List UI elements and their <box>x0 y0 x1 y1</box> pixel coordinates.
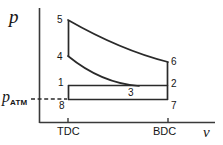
diagram-canvas <box>0 0 223 145</box>
x-tick-label-bdc: BDC <box>153 126 176 137</box>
y-axis-label: p <box>9 7 19 26</box>
state-point-label-1: 1 <box>58 78 64 88</box>
patm-axis-annotation: pATM <box>2 89 27 107</box>
state-point-label-3: 3 <box>128 88 134 98</box>
state-point-label-5: 5 <box>57 15 63 25</box>
state-point-label-8: 8 <box>59 101 65 111</box>
curve-5-to-6 <box>68 20 168 62</box>
x-axis-label: v <box>203 125 210 140</box>
state-point-label-6: 6 <box>171 57 177 67</box>
patm-symbol: p <box>2 88 10 105</box>
patm-subscript: ATM <box>10 98 27 107</box>
x-tick-label-tdc: TDC <box>57 126 80 137</box>
state-point-label-7: 7 <box>171 101 177 111</box>
state-point-label-2: 2 <box>171 79 177 89</box>
pv-diagram-figure: p v pATM TDC BDC 5 4 1 8 3 6 2 7 <box>0 0 223 145</box>
curve-4-to-3 <box>68 56 139 86</box>
state-point-label-4: 4 <box>57 52 63 62</box>
